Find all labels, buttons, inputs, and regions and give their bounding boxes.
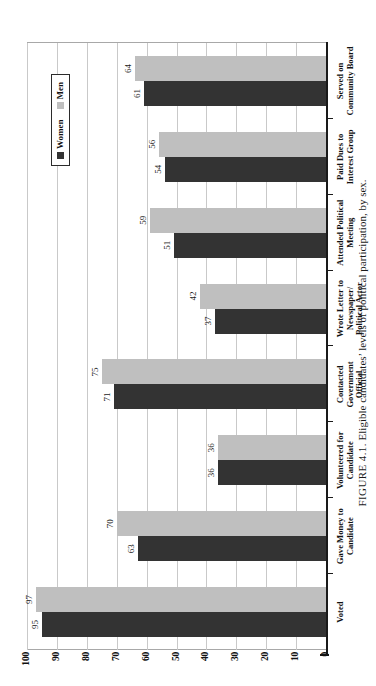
bar-men <box>135 56 326 81</box>
bar-group: 5159 <box>27 195 326 271</box>
bar-value-label: 64 <box>123 51 133 86</box>
bar-value-label: 42 <box>188 279 198 314</box>
bar-women <box>215 309 326 334</box>
bar-men <box>117 511 326 536</box>
legend-swatch-women <box>57 152 64 159</box>
bar-group: 3636 <box>27 422 326 498</box>
bar-women <box>138 536 326 561</box>
value-axis-tick-label: 80 <box>81 652 91 686</box>
bar-men <box>200 284 326 309</box>
bar-value-label: 61 <box>132 76 142 111</box>
bar-women <box>42 612 326 637</box>
value-axis-tick-label: 50 <box>171 652 181 686</box>
bar-group: 5456 <box>27 119 326 195</box>
bar-value-label: 75 <box>90 354 100 389</box>
bar-group: 6164 <box>27 43 326 119</box>
bar-men <box>36 587 326 612</box>
caption-prefix: FIGURE 4.1. <box>356 443 368 506</box>
bar-women <box>114 384 326 409</box>
value-axis-tick-label: 20 <box>260 652 270 686</box>
bar-men <box>218 435 326 460</box>
value-axis-tick-label: 60 <box>141 652 151 686</box>
bar-value-label: 71 <box>102 379 112 414</box>
bar-chart: 10090807060504030201009597Voted6370Gave … <box>27 36 337 686</box>
value-axis-line <box>326 42 328 656</box>
bar-value-label: 59 <box>138 203 148 238</box>
bar-value-label: 63 <box>126 531 136 566</box>
bar-group: 7175 <box>27 347 326 423</box>
legend-swatch-men <box>57 102 64 109</box>
legend-label: Men <box>55 82 65 100</box>
bar-value-label: 36 <box>206 430 216 465</box>
figure-caption: FIGURE 4.1. Eligible candidates’ levels … <box>350 0 374 686</box>
value-axis-tick-label: 0 <box>320 652 330 686</box>
bar-group: 9597 <box>27 574 326 650</box>
category-tick <box>327 270 333 271</box>
rotated-chart-container: 10090807060504030201009597Voted6370Gave … <box>0 0 376 686</box>
bar-group: 3742 <box>27 271 326 347</box>
category-tick <box>327 573 333 574</box>
category-tick <box>327 346 333 347</box>
category-label: Voted <box>336 574 346 650</box>
bar-group: 6370 <box>27 498 326 574</box>
category-tick <box>327 194 333 195</box>
bar-value-label: 37 <box>203 304 213 339</box>
caption-text: Eligible candidates’ levels of political… <box>356 179 368 440</box>
legend-label: Women <box>55 119 65 149</box>
category-tick <box>327 118 333 119</box>
bar-value-label: 97 <box>24 582 34 617</box>
value-axis-tick-label: 90 <box>51 652 61 686</box>
value-axis-tick-label: 100 <box>21 652 31 686</box>
value-axis-tick-label: 70 <box>111 652 121 686</box>
category-tick <box>327 497 333 498</box>
bar-women <box>218 460 326 485</box>
bar-women <box>174 233 326 258</box>
value-axis-tick-label: 40 <box>200 652 210 686</box>
legend-entry-women: Women <box>55 119 65 159</box>
figure-page: 10090807060504030201009597Voted6370Gave … <box>0 0 376 686</box>
bar-men <box>102 359 326 384</box>
value-axis-tick-label: 10 <box>290 652 300 686</box>
legend-entry-men: Men <box>55 82 65 110</box>
bar-value-label: 51 <box>162 228 172 263</box>
value-axis-tick-label: 30 <box>230 652 240 686</box>
bar-men <box>159 132 326 157</box>
chart-legend: WomenMen <box>51 74 70 166</box>
bar-women <box>144 81 326 106</box>
bar-women <box>165 157 326 182</box>
bar-value-label: 56 <box>147 127 157 162</box>
bar-men <box>150 208 326 233</box>
bar-value-label: 70 <box>105 506 115 541</box>
category-tick <box>327 421 333 422</box>
